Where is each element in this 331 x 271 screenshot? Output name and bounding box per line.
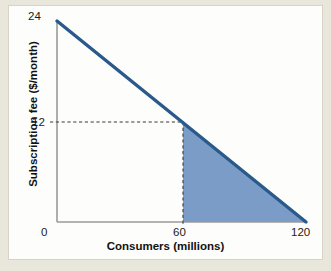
chart-canvas (0, 0, 331, 271)
demand-curve-line (57, 21, 306, 222)
x-tick-label-120: 120 (291, 226, 310, 238)
figure-root: 24 12 0 60 120 Consumers (millions) Subs… (0, 0, 331, 271)
y-axis-title-wrapper: Subscription fee ($/month) (27, 19, 39, 209)
x-tick-label-60: 60 (173, 226, 186, 238)
x-axis-title-text: Consumers (millions) (107, 240, 225, 252)
x-tick-label-0: 0 (41, 226, 47, 238)
y-axis-title: Subscription fee ($/month) (27, 19, 39, 209)
x-axis-title: Consumers (millions) (0, 240, 331, 252)
